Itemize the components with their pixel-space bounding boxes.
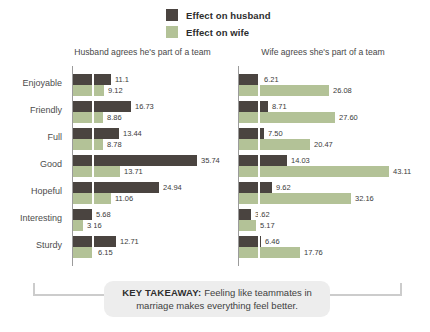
- bar-effect-on-husband: [238, 155, 287, 166]
- bar-value-label: 9.62: [276, 182, 291, 193]
- bar-effect-on-husband: [238, 182, 272, 193]
- bar-effect-on-husband: [238, 128, 264, 139]
- bar-effect-on-wife: [238, 112, 335, 123]
- bar-value-label: 3.16: [87, 220, 102, 231]
- bar-effect-on-wife: [238, 139, 310, 150]
- bar-effect-on-wife: [72, 112, 103, 123]
- bar-effect-on-husband: [238, 209, 251, 220]
- bar-value-label: 8.71: [272, 101, 287, 112]
- bar-effect-on-husband: [72, 155, 197, 166]
- category-label: Sturdy: [0, 240, 62, 250]
- bar-value-label: 12.71: [120, 236, 139, 247]
- bar-value-label: 32.16: [355, 193, 374, 204]
- bar-effect-on-wife: [238, 220, 256, 231]
- category-label: Good: [0, 159, 62, 169]
- chart-row: Interesting5.683.163.625.17: [0, 209, 430, 231]
- category-label: Interesting: [0, 213, 62, 223]
- bar-effect-on-wife: [72, 247, 94, 258]
- bar-value-label: 11.06: [115, 193, 133, 204]
- key-takeaway-box: KEY TAKEAWAY: Feeling like teammates in …: [104, 281, 330, 317]
- panel-title-husband: Husband agrees he's part of a team: [45, 47, 240, 57]
- y-axis-right: [238, 66, 239, 266]
- bar-effect-on-husband: [238, 101, 268, 112]
- bar-value-label: 5.68: [96, 209, 111, 220]
- chart-row: Good35.7413.7114.0343.11: [0, 155, 430, 177]
- bar-value-label: 8.86: [107, 112, 122, 123]
- legend-label: Effect on husband: [186, 10, 271, 21]
- bar-value-label: 24.94: [163, 182, 182, 193]
- bar-value-label: 11.1: [115, 74, 129, 85]
- chart-row: Hopeful24.9411.069.6232.16: [0, 182, 430, 204]
- bar-value-label: 35.74: [201, 155, 220, 166]
- panel-title-wife: Wife agrees she's part of a team: [228, 47, 418, 57]
- bar-chart: Enjoyable11.19.126.2126.08Friendly16.738…: [0, 66, 430, 270]
- category-label: Hopeful: [0, 186, 62, 196]
- bar-effect-on-wife: [72, 85, 104, 96]
- bar-value-label: 13.71: [124, 166, 143, 177]
- bar-effect-on-husband: [72, 182, 159, 193]
- bar-value-label: 13.44: [123, 128, 142, 139]
- bar-effect-on-wife: [72, 139, 103, 150]
- bar-value-label: 26.08: [333, 85, 352, 96]
- legend: Effect on husband Effect on wife: [166, 9, 271, 38]
- bar-value-label: 17.76: [304, 247, 323, 258]
- bar-value-label: 20.47: [314, 139, 333, 150]
- category-label: Enjoyable: [0, 78, 62, 88]
- bar-value-label: 43.11: [393, 166, 411, 177]
- bar-effect-on-wife: [72, 166, 120, 177]
- bar-effect-on-husband: [72, 101, 131, 112]
- bar-value-label: 14.03: [291, 155, 310, 166]
- category-label: Friendly: [0, 105, 62, 115]
- key-takeaway-content: KEY TAKEAWAY: Feeling like teammates in …: [112, 286, 322, 312]
- bar-value-label: 5.17: [260, 220, 275, 231]
- bracket-left-line: [33, 283, 111, 296]
- bar-effect-on-husband: [72, 236, 116, 247]
- bar-value-label: 8.78: [107, 139, 122, 150]
- legend-item-wife: Effect on wife: [166, 26, 271, 38]
- bar-value-label: 7.50: [268, 128, 283, 139]
- bar-value-label: 6.15: [98, 247, 113, 258]
- gridline-right: [258, 66, 260, 266]
- legend-label: Effect on wife: [186, 27, 249, 38]
- bar-effect-on-husband: [238, 74, 260, 85]
- legend-swatch: [166, 26, 178, 38]
- bar-effect-on-wife: [238, 85, 329, 96]
- bar-effect-on-wife: [238, 247, 300, 258]
- bar-effect-on-wife: [238, 193, 351, 204]
- bar-effect-on-wife: [238, 166, 389, 177]
- category-label: Full: [0, 132, 62, 142]
- y-axis-left: [72, 66, 73, 266]
- bar-value-label: 16.73: [135, 101, 154, 112]
- gridline-left: [92, 66, 94, 266]
- key-takeaway-label: KEY TAKEAWAY:: [122, 287, 201, 298]
- infographic: Effect on husband Effect on wife Husband…: [0, 0, 430, 332]
- bar-effect-on-wife: [72, 220, 83, 231]
- bar-effect-on-husband: [72, 128, 119, 139]
- bar-effect-on-husband: [72, 209, 92, 220]
- bar-value-label: 27.60: [339, 112, 358, 123]
- bar-value-label: 9.12: [108, 85, 123, 96]
- chart-row: Enjoyable11.19.126.2126.08: [0, 74, 430, 96]
- legend-item-husband: Effect on husband: [166, 9, 271, 21]
- chart-row: Friendly16.738.868.7127.60: [0, 101, 430, 123]
- bar-value-label: 6.21: [264, 74, 279, 85]
- chart-row: Sturdy12.716.156.4617.76: [0, 236, 430, 258]
- bar-value-label: 6.46: [265, 236, 280, 247]
- chart-row: Full13.448.787.5020.47: [0, 128, 430, 150]
- bracket-right-line: [326, 283, 402, 296]
- legend-swatch: [166, 9, 178, 21]
